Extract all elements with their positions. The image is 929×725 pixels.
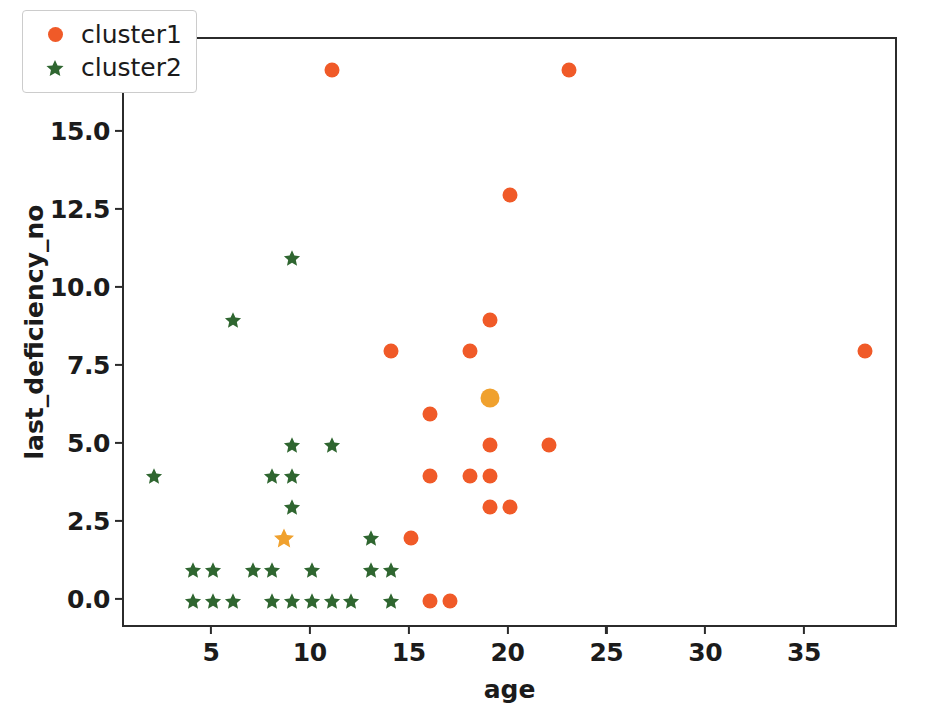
data-point-cluster2 [382,592,399,609]
y-tick-label: 2.5 [67,506,110,535]
star-icon [33,59,77,77]
data-point-cluster1 [502,188,517,203]
data-point-centroid2 [274,528,295,549]
data-point-cluster1 [482,500,497,515]
y-tick-label: 5.0 [67,428,110,457]
x-axis-label: age [122,675,897,704]
y-axis-tick-labels: 0.02.55.07.510.012.515.017.5 [0,0,110,725]
data-point-cluster1 [482,437,497,452]
y-tick-label: 15.0 [50,116,110,145]
y-tick-mark [115,208,122,210]
data-point-centroid1 [480,388,499,407]
data-point-cluster2 [323,592,340,609]
x-tick-mark [704,627,706,634]
data-point-cluster1 [502,500,517,515]
data-point-cluster2 [204,592,221,609]
data-point-cluster1 [482,469,497,484]
data-point-cluster2 [284,499,301,516]
x-tick-label: 30 [688,638,722,667]
data-point-cluster1 [482,312,497,327]
legend-label: cluster2 [77,53,182,82]
x-tick-label: 25 [589,638,623,667]
x-tick-label: 10 [293,638,327,667]
scatter-plot-figure: last_deficiency_no 0.02.55.07.510.012.51… [0,0,929,725]
y-tick-mark [115,520,122,522]
data-point-cluster1 [462,469,477,484]
x-tick-label: 5 [202,638,219,667]
legend-label: cluster1 [77,20,182,49]
data-point-cluster1 [403,531,418,546]
data-point-cluster2 [303,592,320,609]
data-point-cluster2 [284,468,301,485]
data-point-cluster1 [324,63,339,78]
plot-axes-frame [122,37,897,627]
data-point-cluster1 [561,63,576,78]
x-tick-mark [506,627,508,634]
data-point-cluster2 [284,249,301,266]
y-tick-mark [115,130,122,132]
y-tick-label: 0.0 [67,584,110,613]
y-tick-mark [115,442,122,444]
data-point-cluster2 [264,592,281,609]
data-point-cluster2 [204,561,221,578]
y-tick-label: 10.0 [50,272,110,301]
data-point-cluster1 [858,344,873,359]
x-tick-mark [210,627,212,634]
data-point-cluster2 [343,592,360,609]
legend-item-cluster2[interactable]: cluster2 [33,51,182,84]
data-point-cluster2 [185,561,202,578]
x-tick-label: 20 [491,638,525,667]
data-point-cluster2 [363,561,380,578]
x-tick-mark [309,627,311,634]
data-point-cluster2 [224,592,241,609]
y-tick-label: 12.5 [50,194,110,223]
x-tick-mark [408,627,410,634]
data-point-cluster2 [303,561,320,578]
x-tick-mark [605,627,607,634]
plot-data-area [124,39,895,625]
data-point-cluster2 [323,436,340,453]
y-tick-label: 7.5 [67,350,110,379]
data-point-cluster1 [423,469,438,484]
data-point-cluster2 [264,561,281,578]
data-point-cluster1 [443,593,458,608]
x-tick-label: 35 [787,638,821,667]
circle-icon [33,27,77,42]
legend-item-cluster1[interactable]: cluster1 [33,18,182,51]
data-point-cluster2 [382,561,399,578]
y-tick-mark [115,286,122,288]
data-point-cluster1 [383,344,398,359]
data-point-cluster2 [145,468,162,485]
data-point-cluster1 [423,593,438,608]
x-tick-label: 15 [392,638,426,667]
data-point-cluster2 [363,530,380,547]
data-point-cluster2 [244,561,261,578]
y-tick-mark [115,364,122,366]
data-point-cluster1 [542,437,557,452]
data-point-cluster2 [284,436,301,453]
data-point-cluster1 [462,344,477,359]
x-tick-mark [803,627,805,634]
data-point-cluster2 [224,311,241,328]
data-point-cluster2 [185,592,202,609]
data-point-cluster1 [423,406,438,421]
y-tick-mark [115,598,122,600]
data-point-cluster2 [264,468,281,485]
legend: cluster1cluster2 [22,10,197,93]
data-point-cluster2 [284,592,301,609]
